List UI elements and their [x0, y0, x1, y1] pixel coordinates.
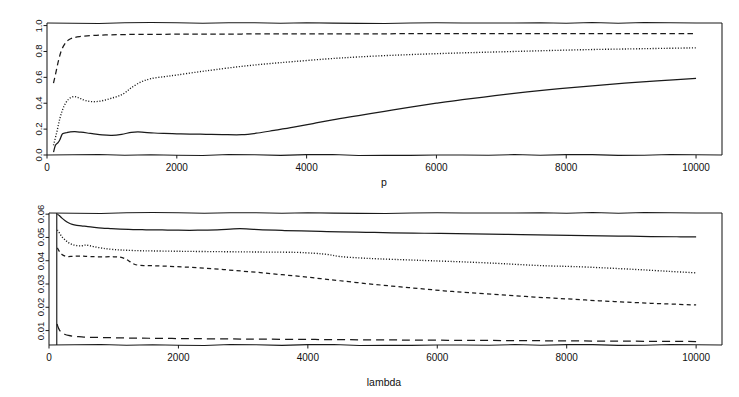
series-second-dotted: [57, 230, 696, 273]
x-tick-label: 6000: [425, 162, 447, 173]
series-top-solid: [57, 214, 696, 237]
plot-frame: [47, 22, 722, 155]
x-axis-title-lambda: lambda: [367, 376, 401, 388]
x-tick-label: 8000: [555, 162, 577, 173]
series-upper-dashed: [53, 34, 696, 84]
chart-panel-p: p 02000400060008000100000.00.20.40.60.81…: [0, 0, 739, 197]
x-tick-label: 0: [46, 352, 52, 363]
x-tick-label: 4000: [295, 162, 317, 173]
y-tick-label: 0.06: [34, 197, 48, 231]
x-tick-label: 8000: [556, 352, 578, 363]
x-tick-label: 6000: [426, 352, 448, 363]
data-series-group: [53, 34, 696, 153]
series-bottom-long-dashed: [57, 324, 696, 341]
data-series-group: [57, 214, 696, 341]
figure-two-panel-line-charts: p 02000400060008000100000.00.20.40.60.81…: [0, 0, 739, 397]
x-tick-label: 10000: [682, 352, 710, 363]
series-lower-solid: [53, 78, 696, 152]
series-third-short-dashed: [57, 248, 696, 305]
x-tick-label: 2000: [166, 162, 188, 173]
series-middle-dotted: [53, 48, 696, 145]
chart-panel-lambda: lambda 02000400060008000100000.010.020.0…: [0, 196, 739, 397]
x-tick-label: 10000: [682, 162, 710, 173]
plot-area-p: [0, 0, 739, 197]
x-tick-label: 2000: [167, 352, 189, 363]
x-axis-title-p: p: [381, 176, 387, 188]
y-tick-label: 1.0: [32, 9, 46, 43]
plot-area-lambda: [0, 196, 739, 397]
x-tick-label: 4000: [297, 352, 319, 363]
